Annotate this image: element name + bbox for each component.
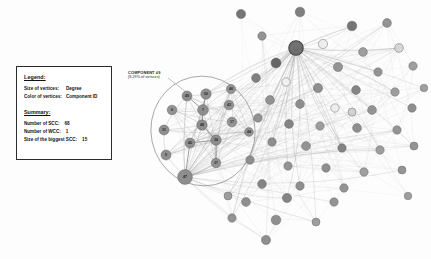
graph-node[interactable]	[242, 198, 251, 207]
graph-edge	[266, 67, 338, 240]
graph-node-labeled[interactable]	[185, 138, 195, 148]
graph-node[interactable]	[322, 164, 330, 172]
graph-node-labeled[interactable]	[211, 135, 221, 145]
graph-node[interactable]	[409, 62, 417, 70]
graph-node[interactable]	[268, 138, 276, 146]
graph-edge	[232, 48, 296, 218]
graph-node-labeled[interactable]	[167, 105, 177, 115]
summary-row-scc: Number of SCC: 68	[24, 121, 104, 127]
graph-node-labeled[interactable]	[198, 105, 209, 116]
legend-value-vertex-color: Component ID	[66, 94, 104, 100]
graph-node-labeled[interactable]	[161, 150, 171, 160]
graph-node[interactable]	[383, 19, 392, 28]
graph-node[interactable]	[353, 124, 362, 133]
graph-node-labeled[interactable]	[245, 128, 254, 137]
graph-node-labeled[interactable]	[159, 125, 169, 135]
graph-node[interactable]	[395, 44, 404, 53]
graph-node[interactable]	[258, 32, 266, 40]
graph-node-labeled[interactable]	[226, 84, 235, 93]
graph-node[interactable]	[261, 235, 270, 244]
graph-node[interactable]	[228, 214, 236, 222]
graph-node[interactable]	[398, 166, 406, 174]
summary-label-biggest-scc: Size of the biggest SCC:	[24, 137, 77, 143]
graph-node[interactable]	[318, 39, 327, 48]
graph-visualization: Legend: Size of vertices: Degree Color o…	[0, 0, 431, 259]
summary-value-wcc: 1	[66, 129, 69, 135]
graph-edge	[172, 110, 190, 143]
graph-edge	[288, 165, 402, 170]
graph-node[interactable]	[284, 162, 292, 170]
graph-node[interactable]	[271, 58, 281, 68]
graph-node[interactable]	[289, 41, 303, 55]
graph-edge	[288, 166, 316, 222]
graph-node-labeled[interactable]	[227, 117, 237, 127]
summary-value-biggest-scc: 15	[82, 137, 87, 143]
graph-node-labeled[interactable]	[178, 170, 193, 185]
summary-title: Summary:	[24, 109, 104, 115]
graph-edge	[232, 48, 296, 218]
graph-edge	[258, 118, 262, 184]
graph-node[interactable]	[404, 192, 412, 200]
graph-node[interactable]	[333, 62, 342, 71]
graph-edge	[232, 48, 296, 218]
component-annotation: COMPONENT #9 (8.29% of vertices)	[128, 70, 186, 80]
graph-node[interactable]	[376, 146, 384, 154]
graph-node[interactable]	[391, 88, 399, 96]
graph-node[interactable]	[295, 7, 305, 17]
graph-node[interactable]	[312, 218, 320, 226]
graph-node[interactable]	[330, 198, 338, 206]
graph-node[interactable]	[285, 120, 294, 129]
graph-node[interactable]	[374, 68, 382, 76]
graph-edge	[276, 219, 316, 222]
summary-row-biggest-scc: Size of the biggest SCC: 15	[24, 137, 104, 143]
graph-node[interactable]	[347, 21, 357, 31]
legend-label-vertex-color: Color of vertices:	[24, 94, 66, 100]
graph-node[interactable]	[266, 96, 275, 105]
graph-edge	[229, 48, 296, 105]
graph-edge	[172, 110, 190, 143]
summary-row-wcc: Number of WCC: 1	[24, 129, 104, 135]
graph-node[interactable]	[246, 156, 254, 164]
graph-node[interactable]	[368, 106, 377, 115]
graph-node[interactable]	[348, 108, 356, 116]
graph-node-labeled[interactable]	[182, 91, 192, 101]
graph-node[interactable]	[224, 192, 232, 200]
graph-edge	[185, 170, 402, 183]
graph-node[interactable]	[360, 168, 368, 176]
graph-node[interactable]	[313, 83, 322, 92]
legend-row-vertex-size: Size of vertices: Degree	[24, 86, 104, 92]
graph-node[interactable]	[282, 193, 291, 202]
graph-node[interactable]	[282, 78, 290, 86]
graph-node[interactable]	[393, 126, 401, 134]
graph-edge	[246, 198, 287, 202]
graph-node[interactable]	[316, 122, 324, 130]
graph-edge	[249, 23, 387, 132]
graph-node[interactable]	[254, 114, 262, 122]
graph-node-labeled[interactable]	[224, 100, 234, 110]
graph-node[interactable]	[352, 86, 361, 95]
graph-node[interactable]	[359, 48, 368, 57]
graph-node[interactable]	[302, 142, 311, 151]
graph-node[interactable]	[236, 9, 245, 18]
graph-node[interactable]	[271, 215, 281, 225]
nodes-layer	[159, 7, 428, 244]
graph-node[interactable]	[408, 104, 416, 112]
graph-node[interactable]	[331, 104, 339, 112]
graph-node[interactable]	[340, 184, 348, 192]
graph-node[interactable]	[338, 144, 346, 152]
graph-node[interactable]	[296, 100, 305, 109]
summary-label-wcc: Number of WCC:	[24, 129, 61, 135]
legend-box: Legend: Size of vertices: Degree Color o…	[16, 66, 112, 160]
graph-node-labeled[interactable]	[211, 158, 221, 168]
component-annotation-subtitle: (8.29% of vertices)	[128, 75, 186, 80]
graph-edge	[352, 48, 399, 112]
legend-title: Legend:	[24, 74, 104, 80]
graph-node[interactable]	[410, 142, 418, 150]
graph-node[interactable]	[252, 74, 261, 83]
graph-node[interactable]	[258, 180, 267, 189]
graph-node[interactable]	[296, 182, 304, 190]
legend-label-vertex-size: Size of vertices:	[24, 86, 66, 92]
graph-node[interactable]	[420, 84, 428, 92]
graph-node-labeled[interactable]	[201, 89, 211, 99]
graph-node-labeled[interactable]	[197, 120, 207, 130]
